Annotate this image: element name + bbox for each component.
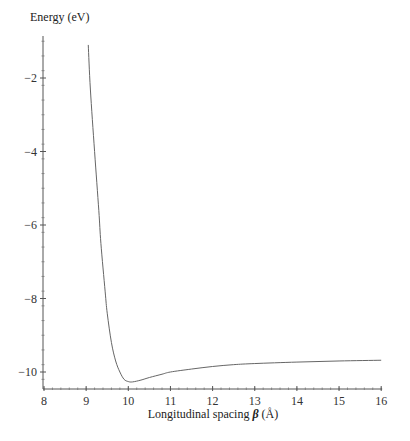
y-axis-title: Energy (eV) xyxy=(30,10,89,24)
y-tick-label: −10 xyxy=(18,365,37,379)
x-tick-label: 13 xyxy=(249,394,261,408)
x-axis-title-suffix: (Å) xyxy=(259,407,279,421)
x-tick-label: 16 xyxy=(375,394,387,408)
y-tick-label: −2 xyxy=(24,71,37,85)
y-tick-label: −4 xyxy=(24,145,37,159)
y-tick-label: −8 xyxy=(24,292,37,306)
x-tick-label: 15 xyxy=(333,394,345,408)
x-tick-label: 11 xyxy=(165,394,177,408)
x-tick-label: 10 xyxy=(122,394,134,408)
x-tick-label: 14 xyxy=(291,394,303,408)
y-tick-label: −6 xyxy=(24,218,37,232)
x-axis-title-prefix: Longitudinal spacing xyxy=(148,407,253,421)
x-tick-label: 8 xyxy=(41,394,47,408)
axes xyxy=(43,36,382,389)
x-axis-title: Longitudinal spacing β (Å) xyxy=(148,407,278,421)
energy-curve xyxy=(88,45,381,382)
x-tick-label: 12 xyxy=(207,394,219,408)
y-axis-ticks: −2−4−6−8−10 xyxy=(18,41,46,379)
energy-vs-spacing-chart: Energy (eV) −2−4−6−8−10 8910111213141516… xyxy=(0,0,410,441)
x-tick-label: 9 xyxy=(83,394,89,408)
